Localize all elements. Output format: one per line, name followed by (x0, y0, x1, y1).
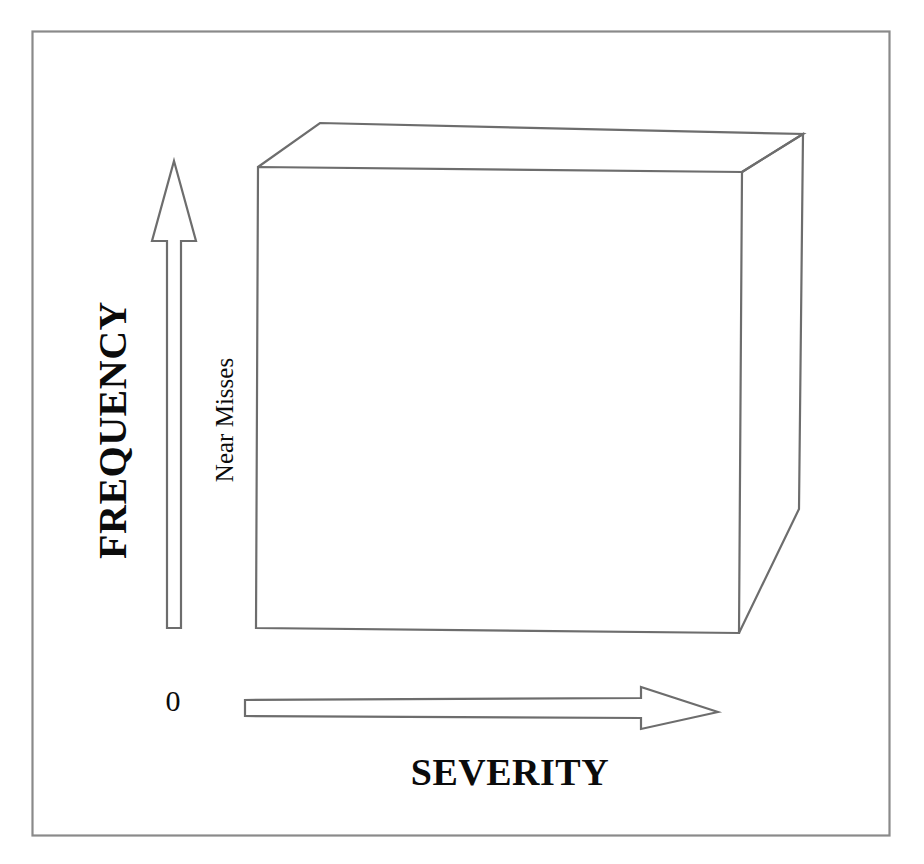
figure-canvas: FREQUENCY Near Misses 0 SEVERITY (0, 0, 924, 864)
severity-axis-label: SEVERITY (411, 753, 609, 791)
severity-axis-arrow (245, 687, 718, 729)
cube-front-face (256, 167, 742, 633)
cube-right-face (739, 134, 803, 633)
cube (256, 123, 803, 633)
frequency-axis-arrow (152, 161, 196, 628)
frequency-axis-label: FREQUENCY (93, 301, 133, 559)
diagram-graphics (0, 0, 924, 864)
near-misses-label: Near Misses (212, 358, 237, 482)
origin-zero-label: 0 (166, 686, 181, 716)
cube-top-face (258, 123, 803, 172)
